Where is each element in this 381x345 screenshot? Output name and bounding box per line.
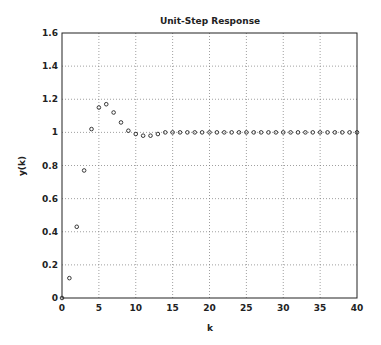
data-point-marker bbox=[156, 132, 160, 136]
x-axis-ticks: 0510152025303540 bbox=[59, 303, 363, 313]
x-tick-label: 10 bbox=[129, 303, 142, 313]
grid-lines bbox=[62, 33, 357, 298]
data-point-marker bbox=[259, 131, 263, 135]
data-point-marker bbox=[340, 131, 344, 135]
y-tick-label: 1.4 bbox=[42, 61, 58, 71]
data-point-marker bbox=[252, 131, 256, 135]
x-tick-label: 15 bbox=[166, 303, 179, 313]
data-point-marker bbox=[112, 111, 116, 115]
data-point-marker bbox=[75, 225, 79, 229]
y-tick-label: 0.8 bbox=[42, 161, 58, 171]
data-point-marker bbox=[163, 131, 167, 135]
y-tick-label: 1.6 bbox=[42, 28, 58, 38]
y-tick-label: 0.6 bbox=[42, 194, 58, 204]
data-point-marker bbox=[149, 134, 153, 138]
x-tick-label: 0 bbox=[59, 303, 65, 313]
x-tick-label: 40 bbox=[351, 303, 364, 313]
data-point-marker bbox=[127, 129, 131, 133]
x-axis-label: k bbox=[207, 323, 214, 333]
chart-title: Unit-Step Response bbox=[160, 16, 260, 26]
data-point-marker bbox=[333, 131, 337, 135]
y-tick-label: 0.4 bbox=[42, 227, 58, 237]
data-point-marker bbox=[68, 276, 72, 280]
x-tick-label: 20 bbox=[203, 303, 216, 313]
data-point-marker bbox=[90, 127, 94, 131]
data-point-marker bbox=[104, 102, 108, 106]
x-tick-label: 30 bbox=[277, 303, 290, 313]
y-tick-label: 0 bbox=[52, 293, 58, 303]
data-point-marker bbox=[119, 121, 123, 125]
x-tick-label: 35 bbox=[314, 303, 327, 313]
data-point-marker bbox=[141, 134, 145, 138]
y-tick-label: 1 bbox=[52, 127, 58, 137]
x-tick-label: 5 bbox=[96, 303, 102, 313]
y-axis-label: y(k) bbox=[17, 156, 27, 176]
y-tick-label: 0.2 bbox=[42, 260, 58, 270]
x-tick-label: 25 bbox=[240, 303, 253, 313]
y-axis-ticks: 00.20.40.60.811.21.41.6 bbox=[42, 28, 58, 303]
unit-step-response-chart: Unit-Step Response 0510152025303540 00.2… bbox=[0, 0, 381, 345]
y-tick-label: 1.2 bbox=[42, 94, 58, 104]
data-point-marker bbox=[82, 169, 86, 173]
